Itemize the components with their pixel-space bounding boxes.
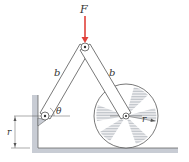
link-left [40, 44, 90, 119]
force-label: F [79, 3, 88, 16]
pin-top [81, 43, 89, 51]
height-dimension [11, 116, 30, 148]
link-right-label: b [109, 67, 115, 78]
pin-wheel-center [123, 113, 129, 119]
floor [32, 148, 178, 153]
angle-label: θ [56, 106, 62, 116]
link-left-label: b [54, 67, 60, 78]
pin-left [41, 112, 49, 120]
force-arrow [82, 16, 89, 43]
wheel-radius-label: r [142, 114, 147, 124]
height-dimension-label: r [7, 127, 12, 137]
wall [32, 95, 38, 152]
mechanism-diagram: F b b θ r r [0, 0, 189, 162]
